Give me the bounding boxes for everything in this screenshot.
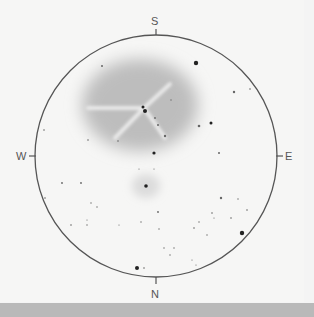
star (233, 91, 235, 93)
star (220, 197, 222, 199)
compass-label-e: E (285, 151, 292, 162)
compass-label-s: S (151, 16, 158, 27)
compass-label-n: N (151, 289, 159, 300)
star (213, 217, 214, 218)
star (240, 231, 244, 235)
star (135, 266, 139, 270)
star (142, 106, 145, 109)
nebula-layer (82, 59, 198, 198)
star (237, 198, 238, 199)
star (163, 247, 164, 248)
star (198, 125, 201, 128)
star (157, 211, 159, 213)
star (158, 228, 159, 229)
star (193, 227, 195, 229)
star (152, 151, 155, 154)
star (90, 202, 91, 203)
star (80, 182, 82, 184)
star (249, 88, 251, 90)
star (153, 168, 154, 169)
star (195, 264, 196, 265)
star (154, 117, 156, 119)
star (118, 224, 119, 225)
star (143, 109, 147, 113)
star (170, 99, 171, 100)
star (86, 219, 87, 220)
star (96, 206, 97, 207)
star (61, 182, 63, 184)
star (43, 129, 45, 131)
sketch-drawing (0, 0, 314, 317)
star (138, 168, 139, 169)
star (86, 224, 87, 225)
star (191, 259, 192, 260)
compass-label-w: W (16, 151, 26, 162)
star (87, 139, 89, 141)
star (230, 217, 232, 219)
star (143, 267, 145, 269)
star (101, 65, 103, 67)
star (198, 221, 199, 222)
star (140, 221, 141, 222)
star (246, 209, 248, 211)
star (70, 224, 72, 226)
star (157, 124, 159, 126)
star (210, 122, 213, 125)
star (44, 197, 46, 199)
star (144, 184, 148, 188)
main-nebula (82, 59, 198, 151)
star (194, 61, 198, 65)
star (164, 135, 166, 137)
star (169, 254, 170, 255)
star (211, 212, 213, 214)
star (206, 234, 207, 235)
star (173, 247, 174, 248)
star (117, 140, 119, 142)
star (218, 152, 220, 154)
